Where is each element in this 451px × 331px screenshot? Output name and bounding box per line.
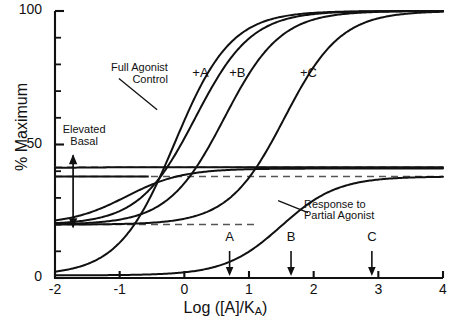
marker-b-label: B [276, 230, 306, 244]
x-tick-label-0: 0 [164, 282, 204, 297]
x-tick-label-1: 1 [229, 282, 269, 297]
marker-c-label: C [357, 230, 387, 244]
marker-a-label: A [215, 230, 245, 244]
y-tick-label-50: 50 [0, 136, 42, 151]
marker-b-head [287, 267, 295, 276]
marker-a-head [226, 267, 234, 276]
curve-response-to-partial-agonist [55, 177, 443, 275]
x-tick-label-3: 3 [358, 282, 398, 297]
x-axis-title: Log ([A]/KA) [0, 299, 451, 317]
curve-label-plus-b: +B [224, 66, 250, 80]
curve-label-plus-c: +C [295, 66, 321, 80]
y-tick-label-100: 100 [0, 2, 42, 17]
x-axis-title-main: Log ([A]/K [184, 299, 255, 316]
x-axis-title-close: ) [262, 299, 267, 316]
elevated-basal-arrow-head-up [69, 154, 77, 164]
x-tick-label-neg1: -1 [100, 282, 140, 297]
x-axis-title-subscript: A [255, 305, 262, 317]
curve-label-plus-a: +A [188, 66, 214, 80]
marker-c-head [368, 267, 376, 276]
annotation-elevated-basal: ElevatedBasal [46, 124, 122, 148]
curve-full-agonist-plus-b [55, 11, 443, 224]
x-tick-label-4: 4 [423, 282, 451, 297]
annotation-response-partial-agonist: Response toPartial Agonist [304, 199, 400, 223]
x-tick-label-2: 2 [294, 282, 334, 297]
dose-response-figure: % Maximum Log ([A]/KA) 050100-2-101234AB… [0, 0, 451, 331]
curve-full-agonist-plus-a [55, 11, 443, 223]
curve-upper-basal-plateau [55, 167, 443, 168]
curve-full-agonist-plus-c [55, 12, 443, 225]
x-tick-label-neg2: -2 [35, 282, 75, 297]
annotation-full-agonist-control: Full AgonistControl [78, 62, 168, 86]
y-axis-title: % Maximum [13, 72, 31, 182]
